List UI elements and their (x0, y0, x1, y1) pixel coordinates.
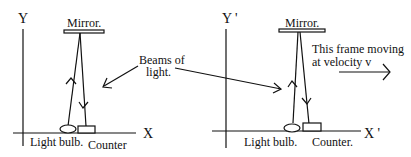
beams-pointer-right (175, 68, 281, 89)
right-x-axis-label: X ' (364, 127, 380, 141)
left-bulb-label: Light bulb. (30, 136, 83, 148)
motion-label-line1: This frame moving (312, 43, 404, 55)
left-mirror (64, 30, 104, 33)
right-beam-down (300, 32, 309, 124)
right-mirror-label: Mirror. (285, 17, 319, 29)
right-counter (303, 123, 321, 131)
right-counter-label: Counter. (312, 136, 353, 148)
left-y-axis-label: Y (18, 12, 28, 26)
right-bulb-label: Light bulb. (244, 136, 297, 148)
beams-pointer-left-arrowhead-icon (103, 78, 112, 88)
beams-pointer-left (104, 66, 138, 86)
left-mirror-label: Mirror. (67, 17, 101, 29)
light-clock-diagram: Y X Mirror. Light bulb. Counter Beams of… (0, 0, 411, 157)
left-x-axis-label: X (143, 127, 153, 141)
left-counter (78, 126, 95, 133)
left-counter-label: Counter (88, 139, 127, 151)
diagram-drawing (0, 0, 411, 157)
right-beam-up (293, 32, 298, 123)
left-arrow-down-icon (79, 102, 88, 108)
beams-label-line2: light. (146, 66, 171, 78)
right-y-axis-label: Y ' (222, 12, 238, 26)
left-light-bulb (60, 125, 76, 133)
right-light-bulb (284, 124, 300, 132)
motion-label-line2: at velocity v (312, 56, 371, 68)
left-beam-down (80, 33, 86, 126)
